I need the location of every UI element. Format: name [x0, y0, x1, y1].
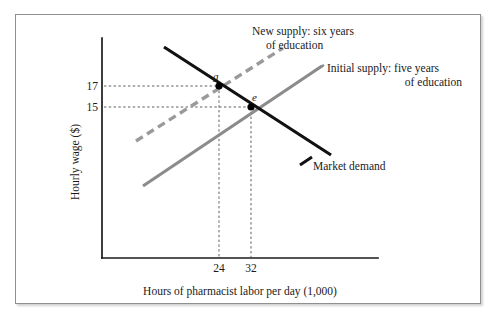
x-tick-24: 24: [205, 261, 233, 275]
market-demand-label: Market demand: [313, 159, 386, 173]
new-supply-label-line1: New supply: six years: [252, 24, 354, 38]
curve-new-supply: [136, 48, 283, 141]
y-tick-17: 17: [76, 79, 98, 93]
y-tick-15: 15: [76, 100, 98, 114]
initial-supply-label-line1: Initial supply: five years: [327, 61, 439, 75]
curve-market-demand: [164, 47, 331, 155]
curve-initial-supply: [143, 66, 322, 186]
point-label-e: e: [252, 91, 257, 104]
market-demand-leader: [300, 157, 312, 165]
figure-root: 17 15 24 32 g e New supply: six years of…: [0, 0, 502, 319]
initial-supply-label-line2: of education: [327, 75, 462, 89]
point-label-g: g: [213, 70, 219, 83]
point-g: [215, 82, 222, 89]
point-e: [247, 103, 254, 110]
y-axis-title: Hourly wage ($): [68, 124, 82, 200]
new-supply-label-line2: of education: [266, 38, 323, 52]
x-axis-title: Hours of pharmacist labor per day (1,000…: [90, 284, 390, 298]
initial-supply-leader: [314, 65, 324, 71]
x-tick-32: 32: [237, 261, 265, 275]
